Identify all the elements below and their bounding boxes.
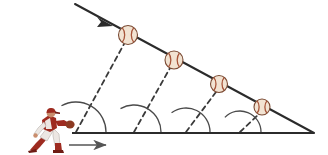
baseball-angle-diagram [0,0,328,155]
baseball-4 [254,99,270,115]
player-glove [65,121,74,129]
player-trailing-hand [33,133,37,137]
baseball-1 [119,26,138,45]
player-front-shin [55,143,62,151]
baseball-2 [165,51,183,69]
diagram-canvas [0,0,328,155]
baseball-3 [211,76,228,93]
player-front-shoe [53,150,64,153]
